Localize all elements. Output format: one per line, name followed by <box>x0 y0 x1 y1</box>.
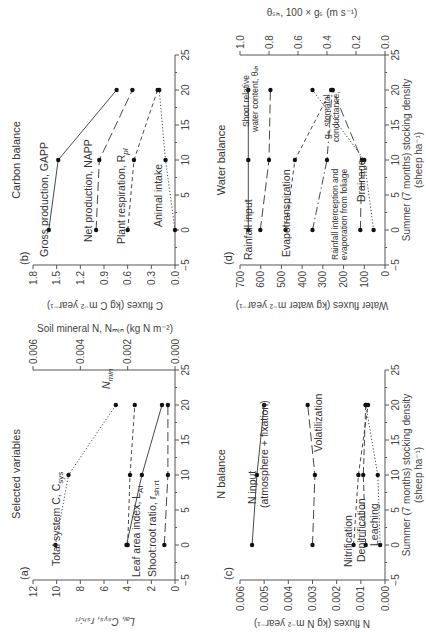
data-point <box>246 158 250 162</box>
x-tick-label: 15 <box>180 119 191 131</box>
data-point <box>371 228 375 232</box>
panel-b-title: Carbon balance <box>10 121 22 199</box>
x-tick-label: 10 <box>180 154 191 166</box>
data-point <box>310 543 314 547</box>
y-tick-label: 0.9 <box>99 271 110 285</box>
data-point <box>94 228 98 232</box>
label-n-input-sub: (atmosphere + fixation) <box>258 400 270 508</box>
data-point <box>97 158 101 162</box>
panel-d-xlabel-1: Summer (7 months) stocking density <box>401 79 412 241</box>
y-tick-label: 8 <box>75 586 86 592</box>
x-tick-label: 5 <box>180 507 191 513</box>
x-tick-label: −5 <box>390 259 401 271</box>
x-tick-label: 10 <box>180 469 191 481</box>
y-right-tick-label: 0.006 <box>28 339 39 364</box>
data-point <box>130 88 134 92</box>
y-right-tick-label: 0.6 <box>293 35 304 49</box>
y-tick-label: 600 <box>255 271 266 288</box>
x-tick-label: 20 <box>180 399 191 411</box>
data-point <box>163 158 167 162</box>
x-tick-label: 10 <box>390 154 401 166</box>
panel-a-ylabel-right: Soil mineral N, Nₘᵢₙ (kg N m⁻²) <box>37 323 173 334</box>
label-rainfall-interception-2: evaporation from foliage <box>339 169 349 260</box>
data-point <box>310 88 314 92</box>
y-tick-label: 0.6 <box>122 271 133 285</box>
data-point <box>162 543 166 547</box>
label-gross-production: Gross production, GAPP <box>38 142 50 257</box>
x-tick-label: 0 <box>390 542 401 548</box>
y-tick-label: 0.005 <box>259 586 270 611</box>
panel-c-ylabel: N fluxes (kg N m⁻² year⁻¹) <box>254 618 370 629</box>
x-tick-label: 25 <box>180 49 191 61</box>
x-tick-label: −5 <box>180 574 191 586</box>
panel-c-letter: (c) <box>222 567 234 580</box>
y-tick-label: 1.8 <box>28 271 39 285</box>
x-tick-label: 10 <box>390 469 401 481</box>
data-point <box>56 158 60 162</box>
y-tick-label: 10 <box>51 586 62 598</box>
x-tick-label: 25 <box>390 49 401 61</box>
label-nmin: Nmin <box>100 368 115 389</box>
data-point <box>124 543 128 547</box>
label-nitrification: Nitrification <box>342 515 354 567</box>
data-point <box>173 228 177 232</box>
y-tick-label: 0 <box>170 586 181 592</box>
data-point <box>250 543 254 547</box>
y-tick-label: 500 <box>276 271 287 288</box>
label-volatilization: Volatilization <box>312 393 324 452</box>
panel-b-letter: (b) <box>18 252 30 265</box>
panel-a: (a) Selected variables −5051015202502468… <box>10 323 191 627</box>
y-right-tick-label: 0.8 <box>264 35 275 49</box>
data-point <box>114 88 118 92</box>
panel-b: (b) Carbon balance −505101520250.00.30.6… <box>10 49 191 311</box>
label-leaching: Leaching <box>368 503 380 546</box>
y-tick-label: 300 <box>317 271 328 288</box>
y-tick-label: 0.3 <box>146 271 157 285</box>
x-tick-label: 20 <box>180 84 191 96</box>
panel-c: (c) N balance −505101520250.0000.0010.00… <box>215 364 424 629</box>
label-drainage: Drainage <box>355 159 367 202</box>
y-right-tick-label: 0.2 <box>351 35 362 49</box>
data-point <box>325 158 329 162</box>
data-point <box>268 88 272 92</box>
y-tick-label: 0.004 <box>283 586 294 611</box>
data-point <box>166 403 170 407</box>
data-point <box>160 403 164 407</box>
panel-b-ylabel: C fluxes (kg C m⁻² year⁻¹) <box>47 300 163 311</box>
panel-a-title: Selected variables <box>10 429 22 519</box>
data-point <box>157 88 161 92</box>
x-tick-label: 15 <box>390 119 401 131</box>
x-tick-label: 20 <box>390 84 401 96</box>
data-point <box>358 228 362 232</box>
panel-a-ylabel: Lₐᵢ, Cₛᵧₛ, rₛₕ:ᵣₜ <box>74 616 134 627</box>
data-point <box>140 473 144 477</box>
panel-d: (d) Water balance −505101520250100200300… <box>215 7 424 311</box>
data-point <box>313 473 317 477</box>
label-leaf-area-index: Leaf area index, LAI <box>130 485 145 577</box>
y-tick-label: 0.002 <box>331 586 342 611</box>
y-tick-label: 0.003 <box>307 586 318 611</box>
y-tick-label: 700 <box>235 271 246 288</box>
figure: (a) Selected variables −5051015202502468… <box>0 0 426 632</box>
label-stomatal-conductance-2: conductance, <box>331 91 341 142</box>
data-point <box>267 158 271 162</box>
data-point <box>293 158 297 162</box>
y-tick-label: 200 <box>338 271 349 288</box>
y-tick-label: 100 <box>359 271 370 288</box>
x-tick-label: 25 <box>390 364 401 376</box>
panel-c-xlabel-2: (sheep ha⁻¹) <box>413 447 424 503</box>
data-point <box>258 228 262 232</box>
x-tick-label: 15 <box>390 434 401 446</box>
panel-d-ylabel-right: θₛₕ, 100 × gₛ (m s⁻¹) <box>267 7 358 18</box>
data-point <box>376 473 380 477</box>
x-tick-label: 15 <box>180 434 191 446</box>
data-point <box>361 473 365 477</box>
label-denitrification: Denitrification <box>355 498 367 562</box>
label-animal-intake: Animal intake <box>152 164 164 227</box>
x-tick-label: 20 <box>390 399 401 411</box>
data-point <box>305 403 309 407</box>
label-shoot-water-content-2: water content, θₛₕ <box>250 65 260 133</box>
y-tick-label: 1.5 <box>51 271 62 285</box>
panel-d-letter: (d) <box>222 252 234 265</box>
y-right-tick-label: 1.0 <box>235 35 246 49</box>
